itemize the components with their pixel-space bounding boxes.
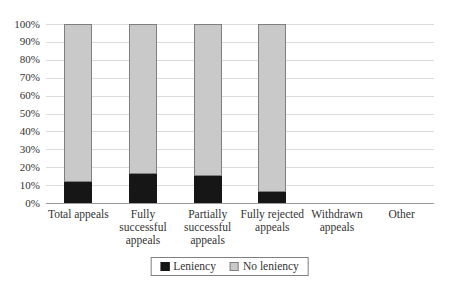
bar-segment-no-leniency-partially-successful-appeals	[194, 24, 222, 176]
legend-label: Leniency	[173, 260, 216, 273]
bar-segment-leniency-fully-successful-appeals	[129, 174, 157, 203]
gridline-90	[46, 42, 434, 43]
legend-item-leniency: Leniency	[160, 260, 216, 273]
gridline-30	[46, 149, 434, 150]
legend-swatch-icon	[160, 262, 169, 271]
x-category-label-other: Other	[360, 208, 444, 221]
gridline-20	[46, 167, 434, 168]
y-tick-label: 0%	[0, 198, 40, 209]
y-tick-label: 100%	[0, 19, 40, 30]
bar-segment-leniency-partially-successful-appeals	[194, 176, 222, 203]
y-axis-tick-labels: 0%10%20%30%40%50%60%70%80%90%100%	[0, 0, 42, 296]
y-tick-label: 80%	[0, 54, 40, 65]
gridline-10	[46, 185, 434, 186]
gridline-80	[46, 60, 434, 61]
stacked-bar-chart-figure: 0%10%20%30%40%50%60%70%80%90%100% Total …	[0, 0, 459, 296]
y-tick-label: 90%	[0, 36, 40, 47]
plot-area	[46, 24, 434, 204]
legend-item-no-leniency: No leniency	[230, 260, 299, 273]
y-tick-label: 30%	[0, 144, 40, 155]
y-tick-label: 40%	[0, 126, 40, 137]
y-tick-label: 70%	[0, 72, 40, 83]
gridline-60	[46, 96, 434, 97]
bar-segment-no-leniency-total-appeals	[64, 24, 92, 182]
y-tick-label: 20%	[0, 162, 40, 173]
bar-segment-no-leniency-fully-successful-appeals	[129, 24, 157, 174]
legend: LeniencyNo leniency	[150, 257, 309, 276]
gridline-50	[46, 114, 434, 115]
x-axis-category-labels: Total appealsFully successful appealsPar…	[46, 208, 434, 256]
bar-segment-leniency-total-appeals	[64, 182, 92, 203]
legend-swatch-icon	[230, 262, 239, 271]
bar-segment-no-leniency-fully-rejected-appeals	[258, 24, 286, 192]
y-tick-label: 50%	[0, 108, 40, 119]
gridline-100	[46, 24, 434, 25]
bar-segment-leniency-fully-rejected-appeals	[258, 192, 286, 203]
y-tick-label: 60%	[0, 90, 40, 101]
y-tick-label: 10%	[0, 180, 40, 191]
legend-label: No leniency	[243, 260, 299, 273]
gridline-70	[46, 78, 434, 79]
gridline-40	[46, 131, 434, 132]
